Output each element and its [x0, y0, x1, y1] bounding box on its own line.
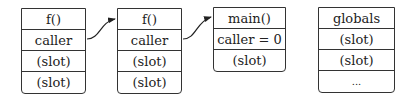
arrow-icon	[183, 17, 211, 39]
caller-arrows	[0, 0, 415, 100]
arrow-icon	[87, 19, 115, 39]
